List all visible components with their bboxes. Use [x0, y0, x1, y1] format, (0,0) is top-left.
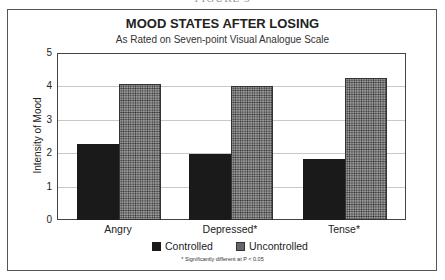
- cropped-figure-caption: FIGURE 3: [150, 0, 295, 4]
- y-tick-label: 5: [38, 47, 52, 58]
- significance-footnote: * Significantly different at P < 0.05: [0, 256, 445, 262]
- chart-title: MOOD STATES AFTER LOSING: [0, 16, 445, 31]
- y-tick-label: 1: [38, 181, 52, 192]
- bar-controlled-depressed: [189, 154, 231, 220]
- legend-item-uncontrolled: Uncontrolled: [236, 240, 308, 252]
- y-tick-label: 0: [38, 214, 52, 225]
- chart-subtitle: As Rated on Seven-point Visual Analogue …: [0, 34, 445, 45]
- bar-controlled-angry: [77, 144, 119, 220]
- x-tick-label: Depressed*: [180, 223, 280, 235]
- controlled-swatch-icon: [152, 242, 161, 251]
- bar-uncontrolled-tense: [345, 78, 387, 220]
- bar-controlled-tense: [303, 159, 345, 220]
- y-tick-label: 4: [38, 80, 52, 91]
- uncontrolled-swatch-icon: [236, 242, 245, 251]
- x-tick-label: Tense*: [294, 223, 394, 235]
- bar-uncontrolled-depressed: [231, 86, 273, 220]
- x-tick-label: Angry: [68, 223, 168, 235]
- legend-label-controlled: Controlled: [165, 240, 213, 252]
- y-tick-label: 2: [38, 147, 52, 158]
- y-axis-label: Intensity of Mood: [32, 91, 43, 181]
- legend-item-controlled: Controlled: [152, 240, 213, 252]
- bar-uncontrolled-angry: [119, 84, 161, 220]
- plot-area: [57, 53, 406, 220]
- legend-label-uncontrolled: Uncontrolled: [249, 240, 308, 252]
- y-tick-label: 3: [38, 114, 52, 125]
